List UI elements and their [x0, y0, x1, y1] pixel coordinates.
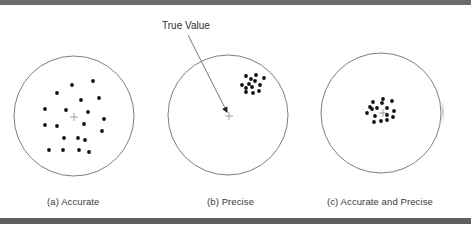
measurement-dot — [372, 120, 376, 124]
measurement-dot — [244, 74, 248, 78]
measurement-dot — [97, 96, 101, 100]
panel-accurate-and-precise — [321, 53, 441, 173]
measurement-dot — [251, 91, 255, 95]
target-circle — [168, 55, 288, 175]
measurement-dot — [77, 148, 81, 152]
measurement-dot — [370, 107, 374, 111]
caption-precise: (b) Precise — [207, 196, 254, 207]
measurement-dot — [55, 91, 59, 95]
measurement-dot — [385, 118, 389, 122]
measurement-dot — [244, 86, 248, 90]
measurement-dot — [43, 107, 47, 111]
true-value-arrow — [188, 35, 227, 112]
measurement-dot — [391, 115, 395, 119]
measurement-dot — [365, 111, 369, 115]
measurement-dot — [375, 106, 379, 110]
measurement-dot — [100, 129, 104, 133]
measurement-dot — [244, 90, 248, 94]
true-value-cross-icon — [70, 113, 78, 121]
measurement-dot — [102, 117, 106, 121]
measurement-dot — [62, 136, 66, 140]
measurement-dot — [257, 89, 261, 93]
measurement-dot — [249, 77, 253, 81]
measurement-dot — [258, 83, 262, 87]
measurement-dot — [381, 97, 385, 101]
measurement-dot — [250, 85, 254, 89]
measurement-dot — [82, 122, 86, 126]
measurement-dot — [91, 79, 95, 83]
measurement-dot — [373, 114, 377, 118]
measurement-dot — [76, 136, 80, 140]
measurement-dot — [247, 82, 251, 86]
panel-precise — [168, 55, 288, 175]
measurement-dot — [79, 98, 83, 102]
true-value-cross-icon — [225, 112, 233, 120]
panel-accurate — [14, 56, 134, 176]
caption-accurate-and-precise: (c) Accurate and Precise — [327, 196, 433, 207]
measurement-dot — [385, 113, 389, 117]
measurement-dot — [380, 101, 384, 105]
measurement-dot — [43, 123, 47, 127]
measurement-dot — [70, 83, 74, 87]
bottom-frame-bar — [0, 218, 471, 224]
measurement-dot — [254, 73, 258, 77]
measurement-dot — [379, 119, 383, 123]
measurement-dot — [47, 148, 51, 152]
measurement-dot — [61, 148, 65, 152]
measurement-dot — [390, 99, 394, 103]
scan-artifact — [441, 100, 444, 124]
measurement-dot — [55, 124, 59, 128]
measurement-dot — [83, 138, 87, 142]
measurement-dot — [64, 108, 68, 112]
measurement-dot — [262, 76, 266, 80]
measurement-dot — [385, 106, 389, 110]
measurement-dot — [87, 150, 91, 154]
accuracy-precision-diagram — [0, 0, 471, 225]
measurement-dot — [392, 109, 396, 113]
measurement-dot — [240, 83, 244, 87]
true-value-label: True Value — [162, 20, 210, 31]
measurement-dot — [86, 110, 90, 114]
measurement-dot — [371, 100, 375, 104]
caption-accurate: (a) Accurate — [47, 196, 99, 207]
measurement-dot — [253, 79, 257, 83]
